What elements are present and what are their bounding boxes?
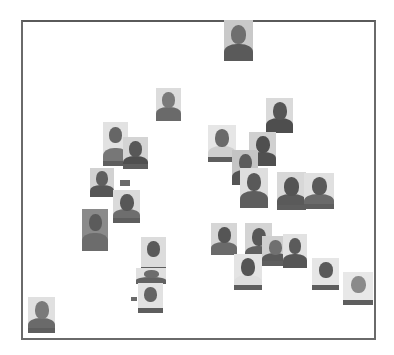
person-silhouette-body xyxy=(90,185,114,197)
person-silhouette-head xyxy=(284,177,299,196)
face-thumbnail-point xyxy=(90,168,114,197)
face-thumbnail-point xyxy=(211,223,237,255)
small-marker-tag xyxy=(120,180,130,186)
small-marker-tag xyxy=(131,297,137,301)
person-silhouette-head xyxy=(162,92,175,108)
person-silhouette-head xyxy=(96,171,108,186)
face-thumbnail-point xyxy=(123,137,148,169)
person-silhouette-head xyxy=(147,241,160,257)
thumbnail-caption-strip xyxy=(28,328,55,333)
person-silhouette-head xyxy=(35,301,49,319)
person-silhouette-head xyxy=(312,177,327,195)
thumbnail-caption-strip xyxy=(240,203,268,208)
face-thumbnail-point xyxy=(266,98,293,133)
face-thumbnail-point xyxy=(240,168,268,208)
person-silhouette-head xyxy=(256,136,270,153)
thumbnail-caption-strip xyxy=(113,218,140,223)
thumbnail-caption-strip xyxy=(123,164,148,169)
person-silhouette-body xyxy=(266,118,293,133)
face-thumbnail-point xyxy=(141,237,166,272)
face-thumbnail-point xyxy=(224,20,253,61)
person-silhouette-head xyxy=(319,262,333,278)
person-silhouette-head xyxy=(269,240,282,255)
thumbnail-caption-strip xyxy=(277,205,306,210)
face-thumbnail-point xyxy=(156,88,181,121)
person-silhouette-head xyxy=(215,129,229,147)
person-silhouette-head xyxy=(351,276,366,293)
face-thumbnail-point xyxy=(283,234,307,268)
thumbnail-caption-strip xyxy=(138,308,163,313)
face-thumbnail-point xyxy=(136,268,166,284)
person-silhouette-body xyxy=(156,107,181,121)
face-thumbnail-point xyxy=(343,272,373,305)
thumbnail-caption-strip xyxy=(343,300,373,305)
face-thumbnail-point xyxy=(234,254,262,290)
thumbnail-caption-strip xyxy=(234,285,262,290)
person-silhouette-head xyxy=(129,141,142,157)
person-silhouette-head xyxy=(289,238,301,254)
person-silhouette-head xyxy=(218,227,231,243)
face-thumbnail-point xyxy=(312,258,339,290)
person-silhouette-head xyxy=(120,194,134,211)
thumbnail-caption-strip xyxy=(304,204,334,209)
person-silhouette-body xyxy=(283,254,307,268)
person-silhouette-head xyxy=(247,173,261,191)
face-thumbnail-point xyxy=(28,297,55,333)
face-thumbnail-point xyxy=(113,190,140,223)
person-silhouette-head xyxy=(109,127,122,143)
thumbnail-caption-strip xyxy=(312,285,339,290)
face-thumbnail-point xyxy=(82,209,108,251)
person-silhouette-head xyxy=(231,25,246,44)
person-silhouette-body xyxy=(82,233,108,251)
face-thumbnail-point xyxy=(277,172,306,210)
person-silhouette-body xyxy=(224,44,253,61)
person-silhouette-head xyxy=(273,102,287,120)
person-silhouette-head xyxy=(144,270,159,278)
face-thumbnail-point xyxy=(304,173,334,209)
face-thumbnail-point xyxy=(138,283,163,313)
person-silhouette-head xyxy=(89,214,102,231)
person-silhouette-head xyxy=(144,287,157,302)
person-silhouette-head xyxy=(241,258,255,276)
